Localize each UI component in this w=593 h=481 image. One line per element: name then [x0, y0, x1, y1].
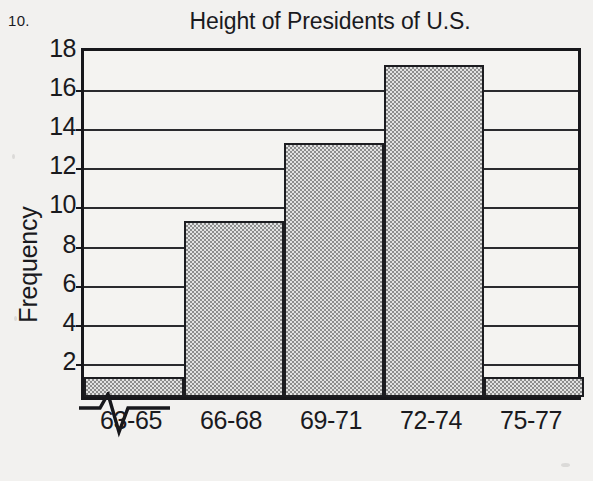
paper-speck	[561, 463, 570, 467]
y-axis-tick-labels: 24681012141618	[40, 36, 76, 416]
y-tick-mark	[76, 129, 83, 131]
x-axis-tick-labels: 63-6566-6869-7172-7475-77	[81, 404, 581, 438]
x-tick-label: 72-74	[381, 404, 481, 436]
x-tick-label: 69-71	[281, 404, 381, 436]
y-tick-label: 14	[40, 114, 76, 139]
chart-title: Height of Presidents of U.S.	[90, 8, 570, 35]
y-tick-mark	[76, 207, 83, 209]
paper-speck	[338, 420, 342, 424]
y-tick-mark	[76, 247, 83, 249]
y-tick-label: 4	[40, 310, 76, 335]
bar	[284, 143, 384, 397]
y-tick-mark	[76, 364, 83, 366]
y-tick-mark	[76, 325, 83, 327]
y-tick-mark	[76, 168, 83, 170]
bar	[484, 377, 584, 397]
y-tick-mark	[76, 286, 83, 288]
y-tick-label: 6	[40, 271, 76, 296]
y-tick-label: 16	[40, 75, 76, 100]
bar	[384, 65, 484, 397]
paper-speck	[14, 316, 17, 321]
y-tick-mark	[76, 90, 83, 92]
y-tick-label: 12	[40, 153, 76, 178]
bar	[184, 221, 284, 397]
chart-page: 10. Height of Presidents of U.S. Frequen…	[0, 0, 593, 481]
y-tick-label: 18	[40, 36, 76, 61]
y-tick-label: 2	[40, 349, 76, 374]
bars-layer	[84, 51, 578, 397]
plot-area	[81, 48, 581, 400]
y-tick-label: 8	[40, 232, 76, 257]
x-tick-label: 75-77	[481, 404, 581, 436]
problem-number: 10.	[8, 12, 30, 29]
x-tick-label: 66-68	[181, 404, 281, 436]
y-tick-label: 10	[40, 192, 76, 217]
y-axis-label: Frequency	[14, 155, 43, 375]
paper-speck	[12, 154, 15, 159]
x-tick-label: 63-65	[81, 404, 181, 436]
